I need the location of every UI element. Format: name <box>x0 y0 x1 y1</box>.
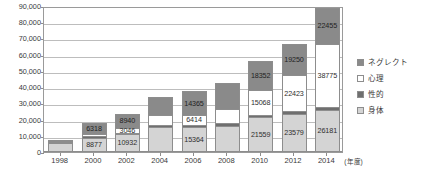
y-axis-tick-label: 80,000 <box>0 19 41 27</box>
legend-swatch-icon <box>357 75 364 82</box>
bar-value-label: 3046 <box>120 127 136 135</box>
bar-segment-psych[interactable]: 22423 <box>282 75 307 111</box>
x-axis-unit-label: (年度) <box>344 157 362 167</box>
bar-group[interactable]: 215591506818352 <box>248 61 273 152</box>
legend-swatch-icon <box>357 107 364 114</box>
bar-segment-neglect[interactable]: 22455 <box>315 8 340 44</box>
bar-segment-sexual[interactable] <box>282 111 307 113</box>
bar-value-label: 26181 <box>318 127 338 135</box>
bar-value-label: 8877 <box>86 141 102 149</box>
bar-segment-psych[interactable]: 6414 <box>182 115 207 125</box>
bar-group[interactable]: 261813877522455 <box>315 8 340 152</box>
y-axis-tick-label: 30,000 <box>0 100 41 108</box>
bar-segment-physical[interactable]: 23579 <box>282 114 307 152</box>
bar-segment-psych[interactable] <box>215 109 240 124</box>
bar-value-label: 6414 <box>186 116 202 124</box>
legend-item-physical[interactable]: 身体 <box>357 106 408 115</box>
x-axis-tick <box>160 153 161 156</box>
bar-segment-neglect[interactable]: 8940 <box>115 114 140 129</box>
bar-value-label: 15364 <box>184 136 204 144</box>
x-axis-tick <box>93 153 94 156</box>
bar-segment-psych[interactable] <box>82 134 107 137</box>
y-axis-tick-label: 60,000 <box>0 52 41 60</box>
bar-segment-neglect[interactable]: 19250 <box>282 44 307 75</box>
bar-segment-sexual[interactable] <box>182 125 207 127</box>
y-axis: 010,00020,00030,00040,00050,00060,00070,… <box>0 0 41 181</box>
bar-segment-neglect[interactable] <box>215 83 240 109</box>
bar-segment-sexual[interactable] <box>215 123 240 125</box>
bar-segment-physical[interactable] <box>215 126 240 152</box>
bar-segment-physical[interactable]: 10932 <box>115 134 140 152</box>
x-axis-tick <box>293 153 294 156</box>
bar-value-label: 38775 <box>318 72 338 80</box>
x-axis: 199820002002200420062008201020122014(年度) <box>0 156 421 170</box>
bar-group[interactable]: 235792242319250 <box>282 44 307 152</box>
x-axis-tick-label: 2014 <box>306 156 346 166</box>
plot-area: 8877631810932304689401536464141436521559… <box>43 7 343 153</box>
bar-segment-psych[interactable] <box>148 115 173 125</box>
bar-segment-sexual[interactable] <box>82 136 107 137</box>
x-axis-tick <box>326 153 327 156</box>
axis-baseline <box>44 151 342 152</box>
bar-value-label: 10932 <box>118 139 138 147</box>
legend-label: 心理 <box>368 74 384 83</box>
bar-segment-neglect[interactable]: 18352 <box>248 61 273 91</box>
bar-segment-sexual[interactable] <box>48 142 73 143</box>
legend-item-psych[interactable]: 心理 <box>357 74 408 83</box>
bar-segment-physical[interactable]: 8877 <box>82 138 107 152</box>
bar-segment-neglect[interactable]: 6318 <box>82 123 107 133</box>
bar-value-label: 6318 <box>86 125 102 133</box>
bar-value-label: 19250 <box>284 56 304 64</box>
legend-label: 性的 <box>368 90 384 99</box>
x-axis-tick <box>193 153 194 156</box>
bar-value-label: 22423 <box>284 90 304 98</box>
legend-swatch-icon <box>357 59 364 66</box>
bar-value-label: 22455 <box>318 22 338 30</box>
bar-series-container: 8877631810932304689401536464141436521559… <box>44 8 342 152</box>
y-axis-tick-label: 10,000 <box>0 133 41 141</box>
bar-value-label: 18352 <box>251 72 271 80</box>
bar-segment-sexual[interactable] <box>248 115 273 117</box>
stacked-bar-chart: 010,00020,00030,00040,00050,00060,00070,… <box>0 0 421 181</box>
legend-label: 身体 <box>368 106 384 115</box>
bar-segment-physical[interactable] <box>148 127 173 152</box>
legend-item-sexual[interactable]: 性的 <box>357 90 408 99</box>
bar-segment-psych[interactable] <box>48 141 73 142</box>
bar-group[interactable]: 88776318 <box>82 123 107 152</box>
bar-group[interactable]: 15364641414365 <box>182 91 207 152</box>
y-axis-tick-label: 40,000 <box>0 84 41 92</box>
bar-segment-physical[interactable]: 26181 <box>315 110 340 152</box>
legend-item-neglect[interactable]: ネグレクト <box>357 58 408 67</box>
bar-value-label: 23579 <box>284 129 304 137</box>
y-axis-tick-label: 20,000 <box>0 117 41 125</box>
y-axis-tick-label: 50,000 <box>0 68 41 76</box>
bar-group[interactable] <box>148 97 173 152</box>
y-axis-tick <box>41 153 44 154</box>
legend-swatch-icon <box>357 91 364 98</box>
bar-segment-physical[interactable]: 15364 <box>182 127 207 152</box>
bar-value-label: 21559 <box>251 131 271 139</box>
bar-value-label: 15068 <box>251 99 271 107</box>
y-axis-tick-label: 70,000 <box>0 35 41 43</box>
y-axis-tick-label: 90,000 <box>0 3 41 11</box>
bar-segment-neglect[interactable]: 14365 <box>182 91 207 114</box>
legend-label: ネグレクト <box>368 58 408 67</box>
bar-group[interactable]: 1093230468940 <box>115 114 140 152</box>
bar-segment-psych[interactable]: 15068 <box>248 90 273 114</box>
x-axis-tick <box>126 153 127 156</box>
x-axis-tick <box>260 153 261 156</box>
bar-group[interactable] <box>215 83 240 152</box>
bar-segment-neglect[interactable] <box>148 97 173 115</box>
bar-segment-psych[interactable]: 3046 <box>115 128 140 133</box>
x-axis-tick <box>226 153 227 156</box>
bar-segment-sexual[interactable] <box>148 125 173 127</box>
x-axis-tick <box>60 153 61 156</box>
bar-value-label: 8940 <box>120 117 136 125</box>
bar-segment-neglect[interactable] <box>48 140 73 142</box>
bar-segment-sexual[interactable] <box>315 107 340 109</box>
bar-segment-psych[interactable]: 38775 <box>315 44 340 107</box>
bar-segment-physical[interactable]: 21559 <box>248 117 273 152</box>
chart-legend: ネグレクト心理性的身体 <box>357 58 408 115</box>
bar-value-label: 14365 <box>184 100 204 108</box>
